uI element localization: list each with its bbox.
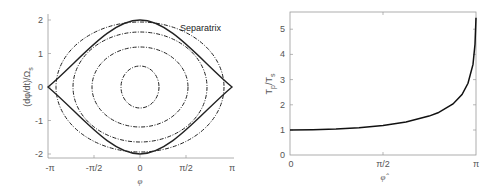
svg-text:4: 4 — [280, 49, 285, 59]
orbit-3 — [92, 47, 188, 127]
svg-text:5: 5 — [280, 24, 285, 34]
left-x-tick-labels: -π -π/2 0 π/2 π — [45, 163, 235, 173]
svg-text:0: 0 — [38, 82, 43, 92]
left-y-tick-labels: 2 1 0 -1 -2 — [35, 15, 43, 159]
svg-text:π: π — [473, 159, 479, 169]
svg-text:1: 1 — [280, 125, 285, 135]
figure: 2 1 0 -1 -2 -π -π/2 0 π/2 π φ (dφ/dt)/Ωs… — [0, 0, 496, 194]
svg-text:π: π — [229, 163, 235, 173]
svg-text:3: 3 — [280, 75, 285, 85]
svg-text:2: 2 — [280, 100, 285, 110]
phase-orbits — [48, 20, 232, 154]
svg-text:-π/2: -π/2 — [86, 163, 103, 173]
left-x-axis-label: φ — [138, 176, 143, 186]
orbit-4 — [121, 66, 159, 108]
left-plot-axes — [48, 14, 234, 158]
svg-text:π/2: π/2 — [179, 163, 193, 173]
right-x-tick-labels: 0 π/2 π — [288, 159, 479, 169]
svg-text:-1: -1 — [35, 116, 43, 126]
svg-text:0: 0 — [137, 163, 142, 173]
svg-text:Tp/Ts: Tp/Ts — [264, 73, 277, 94]
separatrix-annotation: Separatrix — [180, 23, 222, 33]
left-y-axis-label: (dφ/dt)/Ωs — [22, 67, 34, 107]
right-x-axis-label: φ̂ — [381, 172, 390, 182]
svg-text:-π: -π — [45, 163, 54, 173]
right-plot-axes — [290, 12, 476, 155]
svg-text:(dφ/dt)/Ωs: (dφ/dt)/Ωs — [22, 67, 34, 107]
orbit-2 — [73, 32, 207, 142]
right-y-tick-labels: 5 4 3 2 1 0 — [280, 24, 285, 160]
orbit-1 — [56, 22, 224, 152]
svg-text:π/2: π/2 — [376, 159, 390, 169]
svg-text:-2: -2 — [35, 149, 43, 159]
svg-text:2: 2 — [38, 15, 43, 25]
svg-text:0: 0 — [288, 159, 293, 169]
right-y-axis-label: Tp/Ts — [264, 73, 277, 94]
svg-text:0: 0 — [280, 150, 285, 160]
period-ratio-curve — [290, 18, 476, 130]
separatrix-curve — [48, 20, 232, 154]
svg-text:1: 1 — [38, 49, 43, 59]
